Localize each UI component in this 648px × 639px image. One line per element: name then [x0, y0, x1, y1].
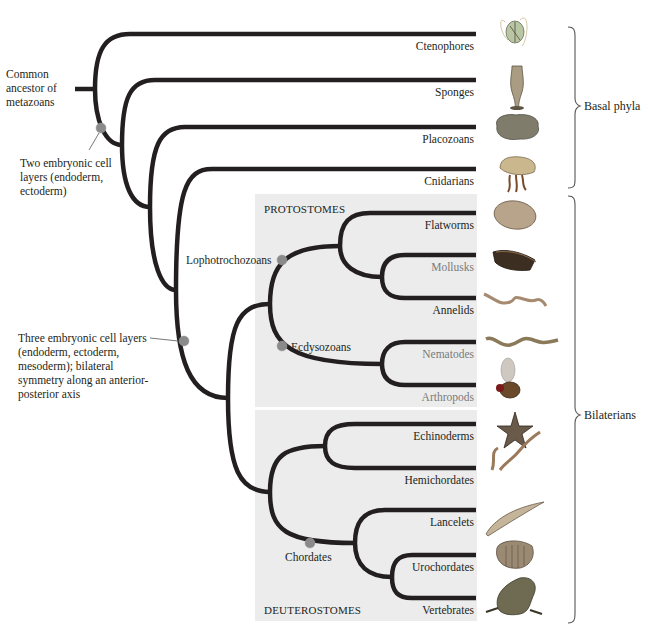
- ecdysozoans-label: Ecdysozoans: [291, 340, 351, 354]
- taxon-label-sponges: Sponges: [344, 85, 474, 99]
- placozoan-illustration: [496, 115, 538, 140]
- frog-illustration: [486, 578, 542, 615]
- sea-squirt-illustration: [497, 541, 534, 568]
- taxon-label-urochordates: Urochordates: [344, 560, 474, 574]
- tree-branches: [0, 0, 648, 639]
- node-marker-ecdysozoans: [277, 341, 287, 351]
- leader-line-two-layers: [89, 133, 99, 150]
- chordates-label: Chordates: [285, 550, 332, 564]
- taxon-label-lancelets: Lancelets: [344, 515, 474, 529]
- three-layers-annotation: Three embryonic cell layers (endoderm, e…: [18, 331, 150, 401]
- bilaterians-label: Bilaterians: [584, 408, 636, 422]
- root-annotation: Common ancestor of metazoans: [6, 67, 76, 109]
- comb-jelly-illustration: [501, 18, 527, 46]
- taxon-label-echinoderms: Echinoderms: [344, 429, 474, 443]
- taxon-label-annelids: Annelids: [344, 303, 474, 317]
- illustrations: [484, 18, 558, 615]
- protostomes-label: PROTOSTOMES: [264, 202, 345, 216]
- basal-phyla-label: Basal phyla: [584, 99, 640, 113]
- taxon-label-hemichordates: Hemichordates: [344, 473, 474, 487]
- phylogeny-diagram: Common ancestor of metazoans Two embryon…: [0, 0, 648, 639]
- sponge-illustration: [510, 66, 524, 110]
- leader-line-three-layers: [150, 338, 178, 341]
- taxon-label-vertebrates: Vertebrates: [344, 603, 474, 617]
- earthworm-illustration: [484, 294, 546, 306]
- node-marker-lophotrochozoans: [277, 255, 287, 265]
- bracket-lines: [568, 27, 580, 623]
- lancelet-illustration: [486, 502, 544, 536]
- taxon-label-arthropods: Arthropods: [344, 390, 474, 404]
- basal-bracket: [568, 27, 580, 188]
- snail-illustration: [493, 250, 536, 270]
- two-layers-annotation: Two embryonic cell layers (endoderm, ect…: [20, 156, 115, 198]
- fly-illustration: [496, 358, 520, 398]
- node-marker-chordates: [305, 538, 315, 548]
- node-marker-two-layers: [96, 123, 106, 133]
- taxon-label-mollusks: Mollusks: [344, 260, 474, 274]
- bilaterians-bracket: [568, 196, 580, 623]
- taxon-label-ctenophores: Ctenophores: [344, 39, 474, 53]
- jellyfish-illustration: [500, 157, 535, 192]
- taxon-label-nematodes: Nematodes: [344, 347, 474, 361]
- taxon-label-placozoans: Placozoans: [344, 132, 474, 146]
- taxon-label-flatworms: Flatworms: [344, 218, 474, 232]
- roundworm-illustration: [486, 338, 558, 345]
- flatworm-illustration: [492, 198, 537, 232]
- node-marker-three-layers: [179, 336, 189, 346]
- taxon-label-cnidarians: Cnidarians: [344, 174, 474, 188]
- lophotrochozoans-label: Lophotrochozoans: [186, 253, 272, 267]
